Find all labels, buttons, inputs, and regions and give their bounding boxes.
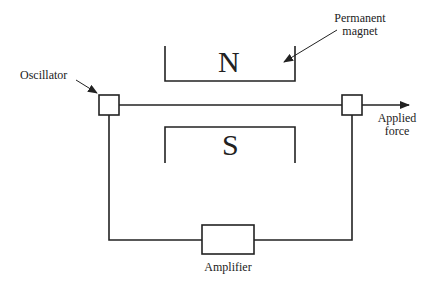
north-pole-label: N [218,47,240,77]
oscillator-pointer-arrow [76,80,97,93]
oscillator-box [99,95,119,115]
amplifier-label: Amplifier [198,261,258,274]
oscillator-label: Oscillator [20,69,67,82]
amplifier-box [202,225,254,254]
applied-force-label-line2: force [372,125,422,138]
feedback-loop-right [254,115,352,240]
diagram-canvas [0,0,435,288]
permanent-magnet-label-line2: magnet [330,25,390,38]
applied-force-label: Applied force [372,112,422,138]
south-pole-label: S [222,130,239,160]
permanent-magnet-label: Permanent magnet [330,12,390,38]
pickup-box [342,95,362,115]
feedback-loop-left [109,115,202,240]
